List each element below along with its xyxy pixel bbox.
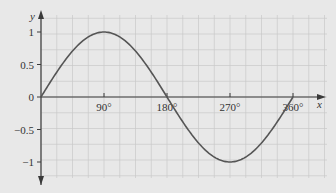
y-ticks: 10.50−0.5−1 <box>14 26 41 168</box>
x-tick-label: 90° <box>96 101 111 113</box>
sine-chart: y x 90°180°270°360° 10.50−0.5−1 <box>0 0 336 193</box>
x-ticks: 90°180°270°360° <box>96 93 303 113</box>
y-axis-arrow-down-icon <box>38 176 44 185</box>
y-tick-label: −0.5 <box>14 124 34 136</box>
axes: y x <box>29 10 326 185</box>
y-tick-label: 1 <box>29 26 35 38</box>
x-axis-label: x <box>316 98 322 110</box>
x-tick-label: 180° <box>157 101 178 113</box>
x-tick-label: 270° <box>220 101 241 113</box>
y-tick-label: 0.5 <box>20 59 34 71</box>
y-tick-label: 0 <box>29 91 35 103</box>
y-axis-arrow-up-icon <box>38 10 44 19</box>
y-axis-label: y <box>29 10 35 22</box>
x-tick-label: 360° <box>283 101 304 113</box>
y-tick-label: −1 <box>22 156 34 168</box>
